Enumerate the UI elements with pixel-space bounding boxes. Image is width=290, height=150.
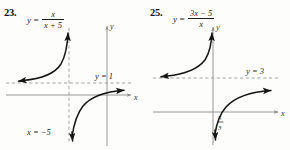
curve-right-branch-arrow (72, 132, 73, 141)
curve-left-branch-arrow (19, 81, 24, 82)
horizontal-asymptote-label: y = 3 (245, 66, 264, 76)
curve-left-branch (167, 33, 212, 76)
textbook-figure-page: 23. y = x x + 5 (0, 0, 290, 150)
curve-left-branch-arrow (161, 76, 167, 77)
y-axis-label: y (109, 22, 114, 31)
curve-right-branch-arrow (215, 130, 216, 140)
graph-canvas-23: x y y = 1 x = −5 (0, 0, 145, 150)
x-axis-label: x (133, 93, 138, 102)
figure-25: 25. y = 3x − 5 x (145, 0, 290, 150)
intercept-denominator: 3 (217, 124, 222, 132)
vertical-asymptote-label: x = −5 (26, 127, 51, 137)
y-axis-label: y (215, 23, 220, 32)
graph-canvas-25: x y y = 3 5 3 (145, 0, 290, 150)
x-axis-label: x (280, 109, 285, 118)
figure-23: 23. y = x x + 5 (0, 0, 145, 150)
graph-svg-23: x y y = 1 x = −5 (0, 0, 145, 150)
curve-right-branch (72, 90, 124, 137)
horizontal-asymptote-label: y = 1 (94, 71, 113, 81)
graph-svg-25: x y y = 3 5 3 (145, 0, 290, 150)
curve-left-branch (23, 33, 68, 81)
